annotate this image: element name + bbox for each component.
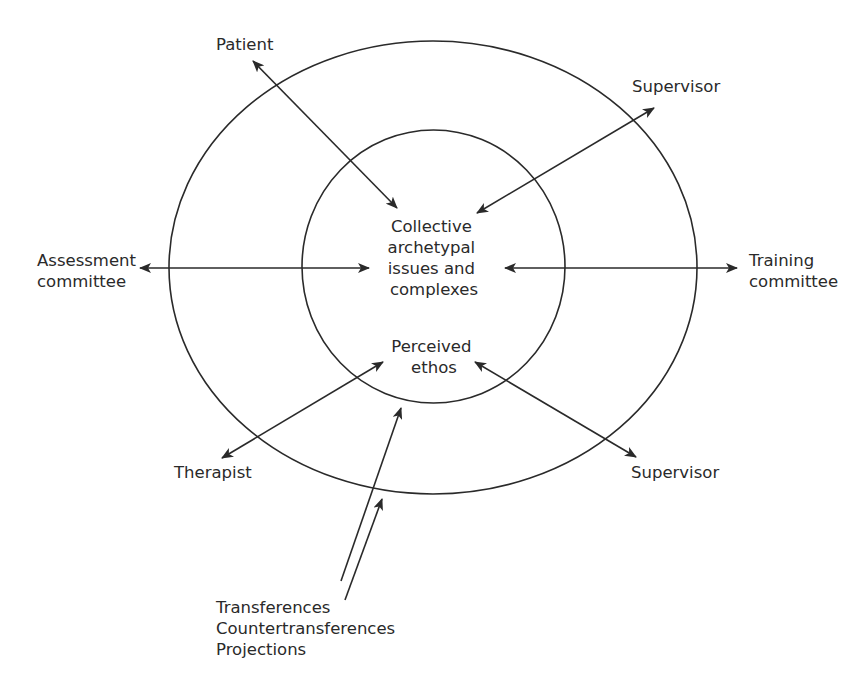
assessment-committee-label: Assessment committee	[37, 251, 141, 291]
training-committee-label: Training committee	[748, 251, 838, 291]
supervisor-bottom-label: Supervisor	[631, 463, 719, 482]
arrow-dynamics-long	[341, 408, 401, 581]
ethos-label: Perceived ethos	[391, 337, 476, 377]
arrow-patient	[253, 61, 397, 208]
arrow-therapist	[222, 362, 383, 458]
patient-label: Patient	[216, 35, 274, 54]
diagram-canvas: Collective archetypal issues and complex…	[0, 0, 867, 687]
collective-label: Collective archetypal issues and complex…	[388, 217, 481, 299]
arrow-supervisor-bottom	[475, 362, 636, 457]
therapist-label: Therapist	[173, 463, 252, 482]
arrow-supervisor-top	[477, 108, 654, 213]
dynamics-label: Transferences Countertransferences Proje…	[215, 598, 400, 659]
supervisor-top-label: Supervisor	[632, 77, 720, 96]
